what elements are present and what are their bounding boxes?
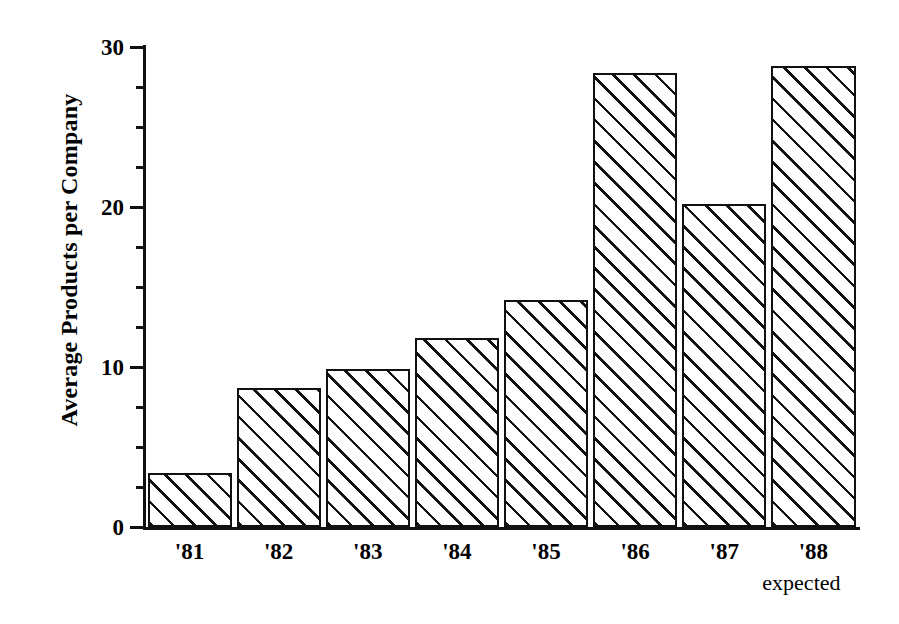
bar bbox=[237, 388, 321, 527]
y-tick-major bbox=[130, 526, 145, 529]
x-tick-label: '81 bbox=[145, 540, 235, 563]
bar bbox=[415, 338, 499, 527]
y-tick-minor bbox=[136, 486, 145, 489]
bar bbox=[326, 369, 410, 527]
x-tick-label: '85 bbox=[501, 540, 591, 563]
plot-area bbox=[145, 47, 858, 527]
x-tick-label: '84 bbox=[412, 540, 502, 563]
y-tick-label-text: 20 bbox=[78, 196, 124, 219]
y-axis-title: Average Products per Company bbox=[46, 0, 92, 520]
y-tick-minor bbox=[136, 126, 145, 129]
y-tick-minor bbox=[136, 86, 145, 89]
y-tick-label: 10 bbox=[72, 355, 124, 379]
x-tick-label: '82 bbox=[234, 540, 324, 563]
y-tick-minor bbox=[136, 406, 145, 409]
x-axis-line bbox=[143, 527, 860, 530]
y-tick-minor bbox=[136, 326, 145, 329]
x-tick-label: '86 bbox=[590, 540, 680, 563]
y-tick-minor bbox=[136, 446, 145, 449]
bar bbox=[148, 473, 232, 527]
bar bbox=[771, 66, 855, 527]
y-tick-label: 0 bbox=[72, 515, 124, 539]
y-tick-minor bbox=[136, 166, 145, 169]
y-tick-minor bbox=[136, 286, 145, 289]
y-tick-major bbox=[130, 366, 145, 369]
bar bbox=[504, 300, 588, 527]
bar-chart-figure: Average Products per Company 0102030 '81… bbox=[0, 0, 899, 624]
y-tick-label: 20 bbox=[72, 195, 124, 219]
bar bbox=[682, 204, 766, 527]
y-tick-label-text: 10 bbox=[78, 356, 124, 379]
y-tick-label-text: 30 bbox=[78, 36, 124, 59]
x-tick-label: '88 bbox=[768, 540, 858, 563]
y-tick-label-text: 0 bbox=[78, 516, 124, 539]
y-tick-label: 30 bbox=[72, 35, 124, 59]
x-tick-label: '83 bbox=[323, 540, 413, 563]
y-tick-minor bbox=[136, 246, 145, 249]
x-axis-annotation-expected: expected bbox=[726, 572, 876, 594]
bar bbox=[593, 73, 677, 527]
y-tick-major bbox=[130, 206, 145, 209]
y-tick-major bbox=[130, 46, 145, 49]
x-tick-label: '87 bbox=[679, 540, 769, 563]
